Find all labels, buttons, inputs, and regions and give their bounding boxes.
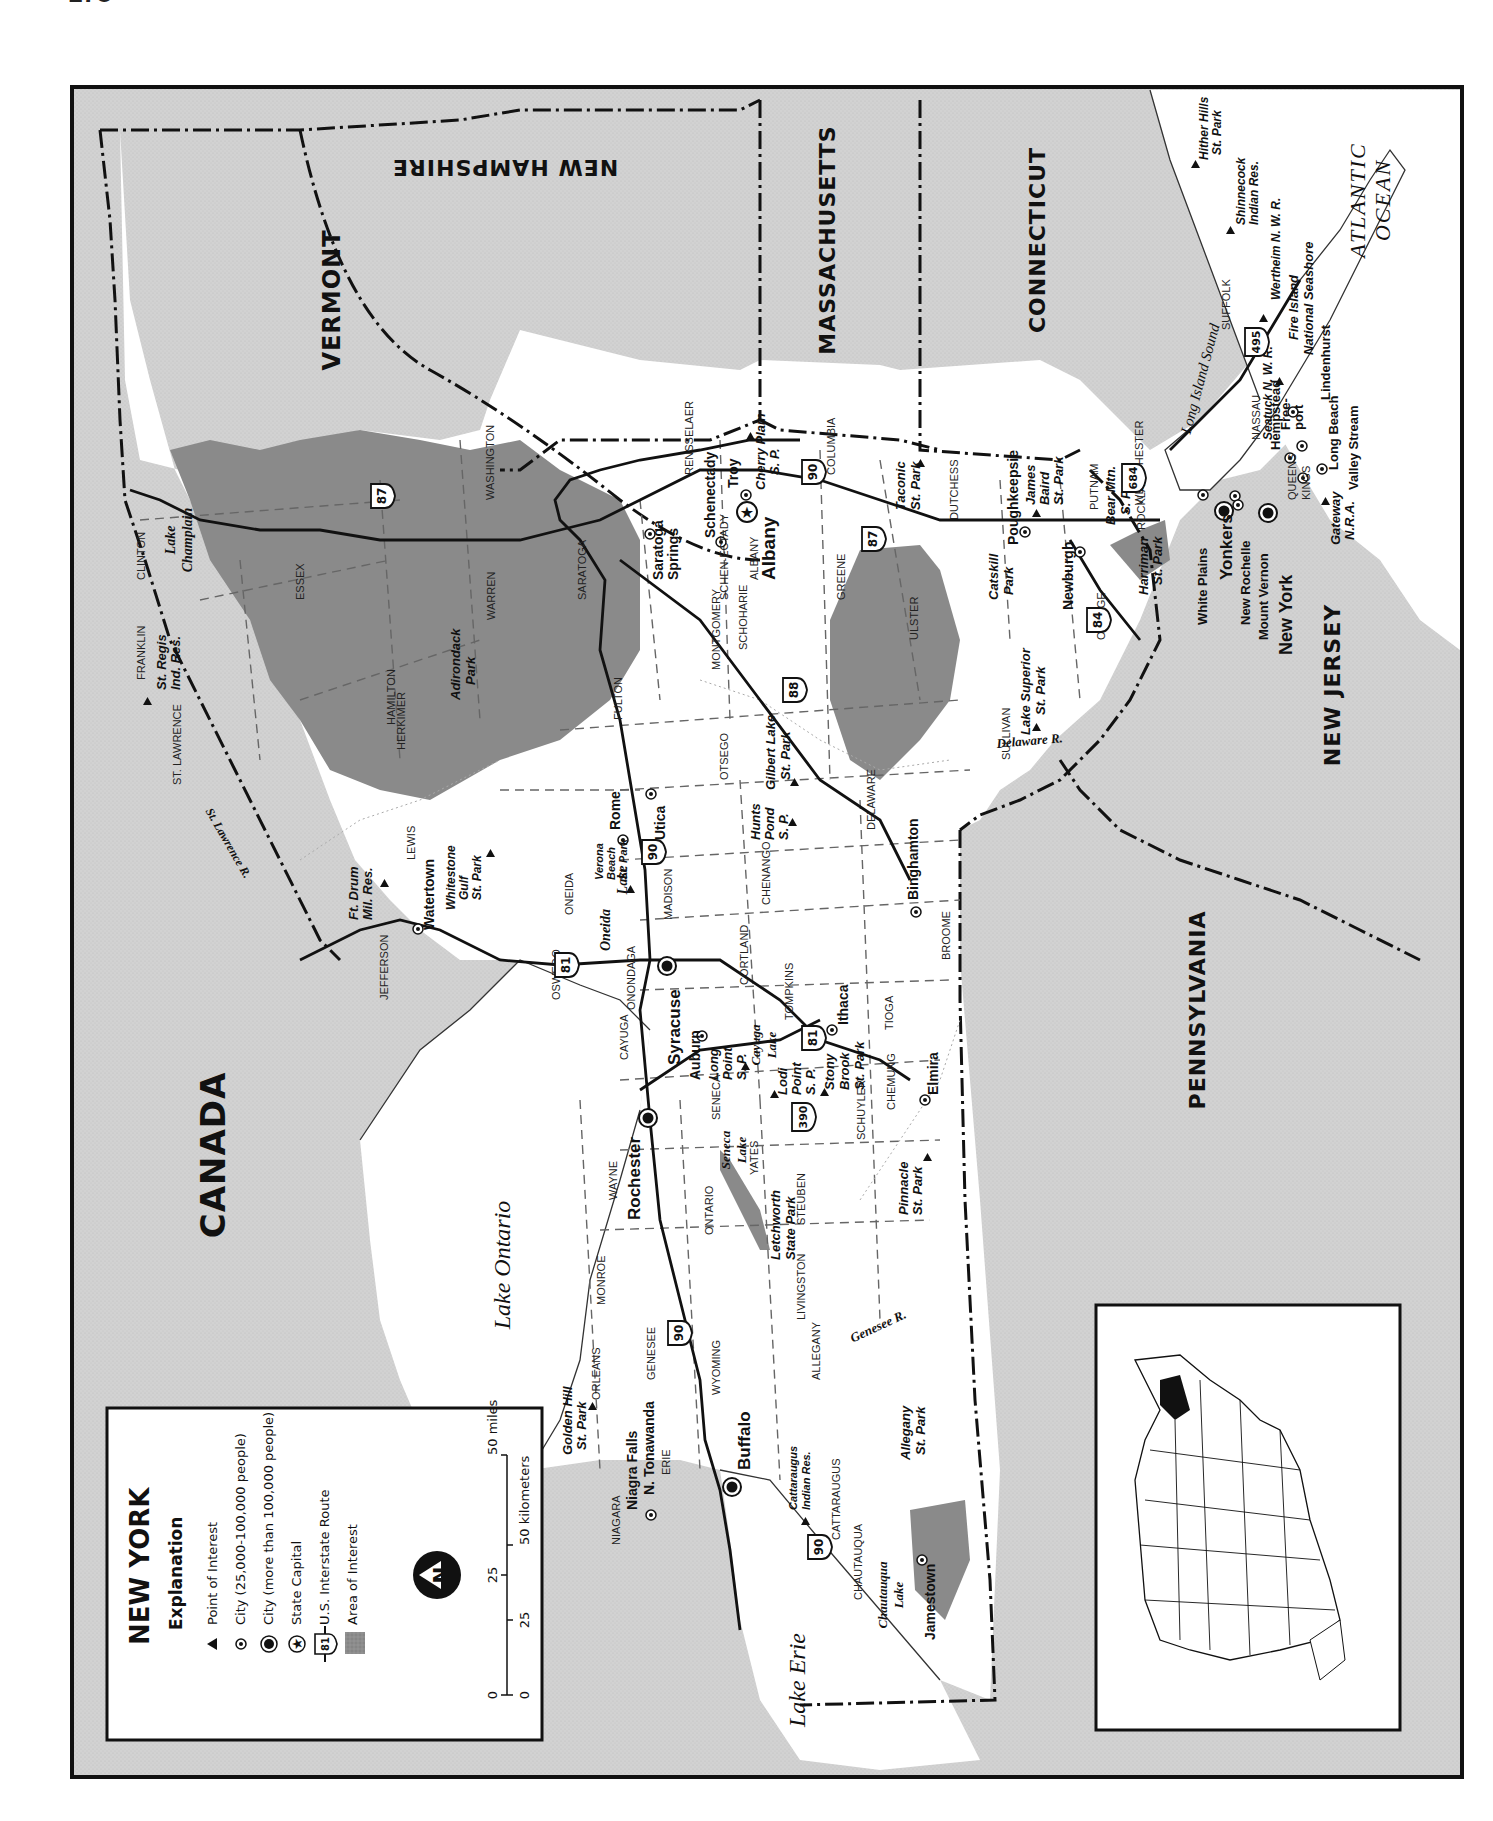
shield-84: 84: [1087, 608, 1111, 632]
svg-text:90: 90: [806, 464, 820, 481]
svg-text:SENECA: SENECA: [710, 1074, 722, 1120]
svg-text:Point: Point: [789, 1062, 804, 1095]
svg-text:Cherry Plain: Cherry Plain: [753, 413, 768, 490]
capital-star-icon: ★: [740, 503, 754, 522]
svg-text:COLUMBIA: COLUMBIA: [825, 417, 837, 475]
svg-text:25: 25: [517, 1612, 532, 1629]
svg-text:S. P.: S. P.: [803, 1068, 818, 1095]
svg-text:St. Park: St. Park: [1033, 666, 1048, 715]
svg-text:Ind. Res.: Ind. Res.: [168, 636, 183, 690]
shield-81-south: 81: [802, 1026, 826, 1050]
lake-champlain-label: Lake: [163, 526, 178, 556]
svg-text:Buffalo: Buffalo: [735, 1411, 754, 1470]
cayuga-lake-label: Cayuga: [748, 1024, 763, 1066]
svg-text:Watertown: Watertown: [421, 859, 437, 930]
svg-text:Albany: Albany: [758, 516, 779, 580]
svg-text:Rome: Rome: [607, 791, 623, 830]
svg-text:Yonkers: Yonkers: [1217, 514, 1236, 580]
svg-text:Poughkeepsie: Poughkeepsie: [1005, 450, 1021, 545]
chautauqua-lake-label: Chautauqua: [875, 1561, 890, 1629]
svg-text:Newburgh: Newburgh: [1060, 542, 1076, 610]
svg-text:LIVINGSTON: LIVINGSTON: [795, 1254, 807, 1320]
legend-item-label: State Capital: [289, 1541, 304, 1625]
svg-text:Bear Mtn.: Bear Mtn.: [1103, 466, 1118, 525]
area-swatch-icon: [345, 1632, 365, 1654]
shield-87-north: 87: [371, 484, 395, 508]
svg-text:Mil. Res.: Mil. Res.: [360, 867, 375, 920]
svg-text:Ithaca: Ithaca: [835, 984, 851, 1025]
svg-text:CAYUGA: CAYUGA: [618, 1014, 630, 1060]
svg-text:WYOMING: WYOMING: [710, 1340, 722, 1395]
svg-text:WASHINGTON: WASHINGTON: [484, 425, 496, 500]
svg-text:25: 25: [485, 1567, 500, 1584]
legend-item-label: Area of Interest: [345, 1524, 360, 1625]
svg-text:0: 0: [485, 1691, 500, 1699]
svg-text:Hunts: Hunts: [748, 803, 763, 840]
poi-taconic[interactable]: Taconic St. Park: [893, 459, 925, 510]
svg-text:Indian Res.: Indian Res.: [800, 1451, 812, 1510]
atlantic-label: ATLANTIC: [1345, 142, 1370, 259]
svg-text:684: 684: [1127, 466, 1140, 489]
shield-90-west: 90: [808, 1535, 832, 1559]
svg-text:Lindenhurst: Lindenhurst: [1318, 324, 1333, 400]
svg-text:Lake Superior: Lake Superior: [1018, 647, 1033, 735]
svg-text:ALLEGANY: ALLEGANY: [810, 1321, 822, 1380]
legend-item-label: Point of Interest: [205, 1522, 220, 1625]
svg-text:ERIE: ERIE: [660, 1449, 672, 1475]
city-saratoga-springs[interactable]: Saratoga Springs: [645, 520, 681, 580]
svg-text:SCHEN-ECTADY: SCHEN-ECTADY: [718, 513, 730, 600]
svg-text:CHAUTAUQUA: CHAUTAUQUA: [852, 1523, 864, 1600]
svg-text:Valley Stream: Valley Stream: [1346, 405, 1361, 490]
svg-text:ST. LAWRENCE: ST. LAWRENCE: [171, 704, 183, 785]
svg-text:CLINTON: CLINTON: [135, 532, 147, 580]
svg-text:Adirondack: Adirondack: [448, 628, 463, 701]
cayuga-lake-label-2: Lake: [764, 1031, 779, 1059]
svg-text:Harriman: Harriman: [1136, 538, 1151, 595]
poi-allegany[interactable]: Allegany St. Park: [898, 1405, 928, 1461]
svg-text:Niagra Falls: Niagra Falls: [624, 1430, 640, 1510]
svg-text:NIAGARA: NIAGARA: [610, 1495, 622, 1545]
seneca-lake-label: Seneca: [718, 1130, 733, 1169]
connecticut-label: CONNECTICUT: [1025, 147, 1050, 333]
svg-text:KINGS: KINGS: [1300, 466, 1312, 500]
svg-text:Taconic: Taconic: [893, 461, 908, 510]
svg-text:495: 495: [1250, 331, 1263, 354]
svg-text:St. Park: St. Park: [1210, 109, 1224, 155]
svg-text:N: N: [428, 1567, 452, 1584]
svg-text:Syracuse: Syracuse: [665, 989, 684, 1065]
svg-text:Auburn: Auburn: [687, 1030, 703, 1080]
svg-text:Mount Vernon: Mount Vernon: [1256, 553, 1271, 640]
svg-text:St. Regis: St. Regis: [154, 634, 169, 690]
svg-text:FRANKLIN: FRANKLIN: [135, 626, 147, 680]
svg-text:Jamestown: Jamestown: [922, 1564, 938, 1640]
legend-item-label: City (more than 100,000 people): [261, 1412, 276, 1625]
svg-text:Elmira: Elmira: [925, 1052, 941, 1095]
svg-text:STEUBEN: STEUBEN: [795, 1173, 807, 1225]
svg-text:Pond: Pond: [762, 806, 777, 840]
legend: NEW YORK Explanation Point of Interest C…: [107, 1399, 542, 1740]
shield-684: 684: [1122, 464, 1146, 492]
svg-text:ESSEX: ESSEX: [294, 563, 306, 600]
svg-text:CHEMUNG: CHEMUNG: [885, 1053, 897, 1110]
shield-88: 88: [783, 678, 807, 702]
svg-text:ALBANY: ALBANY: [748, 536, 760, 580]
svg-text:Beach: Beach: [605, 847, 617, 880]
svg-text:90: 90: [646, 844, 660, 861]
shield-90-east: 90: [802, 460, 826, 484]
svg-text:81: 81: [320, 1637, 331, 1651]
svg-text:N.R.A.: N.R.A.: [1342, 501, 1357, 540]
svg-text:Ft. Drum: Ft. Drum: [346, 866, 361, 920]
svg-text:ORLEANS: ORLEANS: [590, 1347, 602, 1400]
svg-text:SCHUYLER: SCHUYLER: [855, 1080, 867, 1140]
svg-text:50 miles: 50 miles: [485, 1399, 500, 1455]
svg-text:ONONDAGA: ONONDAGA: [625, 945, 637, 1010]
svg-text:Springs: Springs: [665, 528, 681, 580]
svg-text:GREENE: GREENE: [835, 554, 847, 600]
svg-text:81: 81: [806, 1030, 820, 1047]
svg-text:Gilbert Lake: Gilbert Lake: [763, 715, 778, 790]
svg-text:ONTARIO: ONTARIO: [703, 1185, 715, 1235]
svg-text:SUFFOLK: SUFFOLK: [1220, 279, 1232, 330]
poi-letchworth[interactable]: Letchworth State Park: [768, 1190, 798, 1260]
svg-text:CATTARAUGUS: CATTARAUGUS: [830, 1459, 842, 1541]
city-yonkers[interactable]: Yonkers: [1215, 502, 1236, 580]
